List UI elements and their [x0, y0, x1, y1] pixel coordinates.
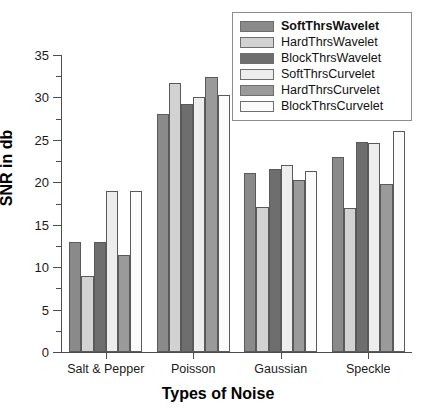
legend-swatch-icon: [240, 37, 274, 48]
y-tick-major: [53, 267, 61, 268]
legend-swatch-icon: [240, 101, 274, 112]
legend-swatch-icon: [240, 85, 274, 96]
y-tick-minor: [56, 204, 61, 205]
legend-item-label: HardThrsWavelet: [281, 36, 378, 49]
x-tick: [193, 352, 194, 359]
x-category-label: Gaussian: [254, 362, 307, 376]
y-axis-line: [61, 55, 62, 353]
bar: [244, 173, 256, 352]
y-tick-major: [53, 55, 61, 56]
x-category-label: Poisson: [171, 362, 215, 376]
y-tick-label: 35: [35, 48, 49, 63]
bar: [393, 131, 405, 352]
bar: [356, 142, 368, 352]
bar: [181, 104, 193, 352]
legend-swatch-icon: [240, 53, 274, 64]
x-tick: [281, 352, 282, 359]
legend-item-label: HardThrsCurvelet: [281, 84, 380, 97]
y-tick-minor: [56, 119, 61, 120]
x-tick: [106, 352, 107, 359]
y-tick-label: 10: [35, 260, 49, 275]
y-tick-label: 30: [35, 90, 49, 105]
y-tick-minor: [56, 161, 61, 162]
legend-item[interactable]: SoftThrsWavelet: [240, 18, 404, 34]
x-category-label: Salt & Pepper: [67, 362, 144, 376]
x-axis-title: Types of Noise: [0, 385, 436, 403]
bar: [157, 114, 169, 352]
x-axis-line: [61, 352, 412, 353]
legend: SoftThrsWaveletHardThrsWaveletBlockThrsW…: [232, 12, 412, 121]
bar: [281, 165, 293, 352]
y-tick-label: 0: [42, 345, 49, 360]
bar: [169, 83, 181, 352]
bar: [118, 255, 130, 352]
bar-chart: 05101520253035 Salt & PepperPoissonGauss…: [0, 0, 436, 413]
legend-item-label: SoftThrsWavelet: [281, 20, 379, 33]
bar: [293, 180, 305, 352]
y-axis-title: SNR in db: [0, 130, 16, 206]
x-category-label: Speckle: [346, 362, 390, 376]
y-tick-major: [53, 140, 61, 141]
legend-item[interactable]: BlockThrsWavelet: [240, 50, 404, 66]
y-tick-minor: [56, 331, 61, 332]
bar: [106, 191, 118, 352]
legend-swatch-icon: [240, 69, 274, 80]
bar: [256, 207, 268, 352]
legend-item-label: BlockThrsWavelet: [281, 52, 381, 65]
y-tick-minor: [56, 246, 61, 247]
bar: [344, 208, 356, 352]
y-tick-label: 5: [42, 302, 49, 317]
y-tick-label: 15: [35, 217, 49, 232]
bar: [368, 143, 380, 352]
y-tick-major: [53, 182, 61, 183]
legend-item[interactable]: HardThrsWavelet: [240, 34, 404, 50]
legend-item[interactable]: HardThrsCurvelet: [240, 82, 404, 98]
bar: [305, 171, 317, 352]
bar: [69, 242, 81, 352]
bar: [269, 169, 281, 352]
bar: [380, 184, 392, 352]
bar: [193, 97, 205, 352]
y-tick-label: 20: [35, 175, 49, 190]
legend-item[interactable]: BlockThrsCurvelet: [240, 98, 404, 114]
bar: [332, 157, 344, 352]
bar: [130, 191, 142, 352]
y-tick-major: [53, 97, 61, 98]
legend-item-label: SoftThrsCurvelet: [281, 68, 375, 81]
bar: [205, 77, 217, 352]
bar: [218, 95, 230, 352]
legend-swatch-icon: [240, 21, 274, 32]
legend-item[interactable]: SoftThrsCurvelet: [240, 66, 404, 82]
x-tick: [368, 352, 369, 359]
y-tick-minor: [56, 288, 61, 289]
bar: [81, 276, 93, 352]
y-tick-label: 25: [35, 132, 49, 147]
y-tick-major: [53, 352, 61, 353]
legend-item-label: BlockThrsCurvelet: [281, 100, 383, 113]
y-tick-major: [53, 225, 61, 226]
y-tick-major: [53, 310, 61, 311]
y-tick-minor: [56, 76, 61, 77]
bar: [94, 242, 106, 352]
